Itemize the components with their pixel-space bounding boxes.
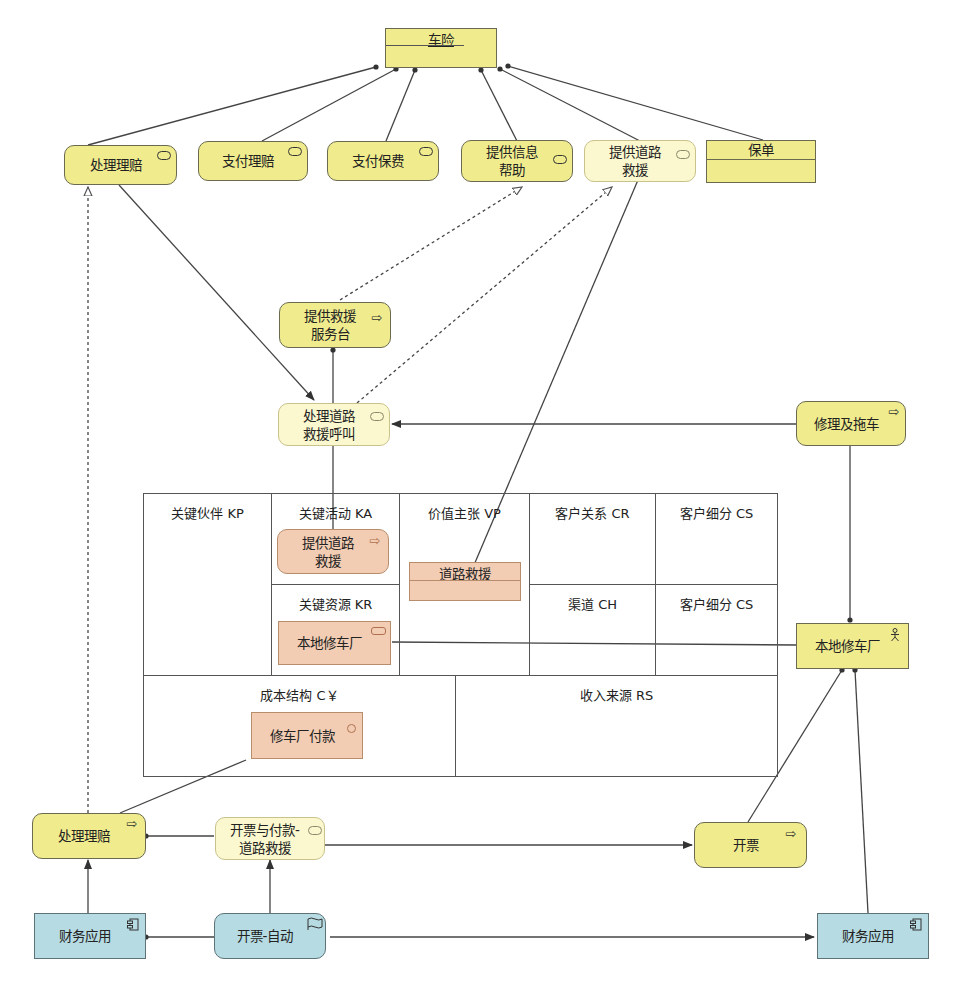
- service-icon: [308, 826, 322, 835]
- actor-icon: [888, 628, 902, 640]
- component-icon-glyph: [127, 918, 139, 931]
- app-invoice-auto[interactable]: 开票-自动: [214, 913, 326, 959]
- resource-icon: [371, 627, 386, 635]
- service-invoice-payment-roadside[interactable]: 开票与付款- 道路救援: [215, 817, 325, 860]
- cell-customer-segments-top-title: 客户细分 CS: [680, 506, 753, 521]
- process-roadside-helpdesk-label: 提供救援 服务台: [300, 307, 370, 343]
- edge-pay-claims-to-product: [262, 69, 396, 141]
- service-handle-roadside-call-label: 处理道路 救援呼叫: [299, 407, 369, 443]
- cell-key-partners: 关键伙伴 KP: [144, 494, 272, 676]
- process-invoice[interactable]: 开票 ⇨: [694, 822, 807, 868]
- process-arrow-icon: ⇨: [125, 818, 139, 830]
- cell-customer-relationships-title: 客户关系 CR: [555, 506, 629, 521]
- contract-policy[interactable]: 保单: [706, 140, 816, 183]
- ka-process-roadside-label: 提供道路 救援: [298, 534, 368, 570]
- role-local-garage[interactable]: 本地修车厂: [796, 623, 909, 669]
- service-icon: [157, 151, 171, 160]
- edge-claims-to-product: [88, 67, 376, 145]
- service-roadside-assist-label: 提供道路 救援: [605, 143, 675, 179]
- edge-roadside-to-product: [500, 69, 640, 141]
- component-icon: [126, 918, 140, 930]
- vp-value-roadside[interactable]: 道路救援: [409, 562, 521, 601]
- process-arrow-icon: ⇨: [370, 312, 384, 324]
- kr-resource-garage[interactable]: 本地修车厂: [278, 621, 391, 665]
- process-repair-tow[interactable]: 修理及拖车 ⇨: [796, 401, 906, 446]
- component-icon: [909, 918, 923, 930]
- edge-policy-to-product: [508, 66, 763, 140]
- edge-pay-premium-to-product: [386, 70, 415, 141]
- app-invoice-auto-label: 开票-自动: [233, 927, 308, 945]
- process-repair-tow-label: 修理及拖车: [810, 415, 893, 433]
- process-invoice-label: 开票: [729, 836, 773, 854]
- service-icon: [553, 155, 567, 164]
- service-icon: [288, 147, 302, 156]
- cell-revenue-streams: 收入来源 RS: [456, 676, 777, 776]
- cost-item-garage-payment[interactable]: 修车厂付款: [251, 712, 363, 759]
- service-info-help-label: 提供信息 帮助: [482, 143, 552, 179]
- process-handle-claims-bottom[interactable]: 处理理赔 ⇨: [32, 813, 146, 859]
- app-finance-right-label: 财务应用: [838, 927, 908, 945]
- process-arrow-icon: ⇨: [887, 406, 901, 418]
- process-handle-claims-bottom-label: 处理理赔: [54, 827, 124, 845]
- archimate-diagram: 车险 处理理赔 支付理赔 支付保费 提供信息 帮助 提供道路 救援 保单 提供救…: [0, 0, 958, 999]
- value-divider: [410, 580, 520, 581]
- cell-revenue-streams-title: 收入来源 RS: [580, 688, 653, 703]
- service-icon: [370, 412, 384, 421]
- product-car-insurance[interactable]: 车险: [385, 28, 497, 68]
- edge-claims-to-handle-call: [119, 185, 314, 400]
- cell-customer-relationships: 客户关系 CR: [530, 494, 656, 585]
- app-finance-right[interactable]: 财务应用: [817, 913, 929, 959]
- product-header-divider: [386, 45, 464, 46]
- edge-helpdesk-realizes-info: [340, 187, 522, 300]
- app-finance-left-label: 财务应用: [55, 927, 125, 945]
- service-invoice-payment-roadside-label: 开票与付款- 道路救援: [226, 821, 314, 857]
- edge-finance-to-garage: [855, 670, 868, 913]
- edge-handle-call-realizes-roadside: [357, 187, 612, 403]
- process-arrow-icon: ⇨: [784, 828, 798, 840]
- actor-icon-glyph: [889, 628, 901, 642]
- ka-process-roadside[interactable]: 提供道路 救援 ⇨: [277, 529, 389, 574]
- business-model-canvas: 关键伙伴 KP 关键活动 KA 关键资源 KR 价值主张 VP 客户关系 CR …: [143, 493, 778, 777]
- event-flag-icon-glyph: [307, 917, 323, 931]
- service-pay-premium-label: 支付保费: [348, 152, 418, 170]
- kr-resource-garage-label: 本地修车厂: [293, 634, 376, 652]
- service-pay-premium[interactable]: 支付保费: [327, 141, 439, 181]
- cell-channels: 渠道 CH: [530, 585, 656, 676]
- role-local-garage-label: 本地修车厂: [811, 637, 894, 655]
- contract-policy-title: 保单: [707, 141, 815, 160]
- edge-info-help-to-product: [481, 70, 517, 141]
- service-icon: [419, 147, 433, 156]
- cell-value-proposition-title: 价值主张 VP: [428, 506, 501, 521]
- service-pay-claims[interactable]: 支付理赔: [198, 141, 308, 181]
- cell-key-partners-title: 关键伙伴 KP: [171, 506, 244, 521]
- cell-customer-segments-top: 客户细分 CS: [656, 494, 777, 585]
- circle-icon: [347, 724, 356, 733]
- service-roadside-assist[interactable]: 提供道路 救援: [584, 140, 696, 182]
- cell-customer-segments-bottom: 客户细分 CS: [656, 585, 777, 676]
- process-roadside-helpdesk[interactable]: 提供救援 服务台 ⇨: [279, 302, 391, 348]
- service-handle-claims[interactable]: 处理理赔: [64, 145, 177, 185]
- cost-item-garage-payment-label: 修车厂付款: [266, 727, 349, 745]
- cell-customer-segments-bottom-title: 客户细分 CS: [680, 597, 753, 612]
- cell-cost-structure-title: 成本结构 C￥: [260, 688, 338, 703]
- service-pay-claims-label: 支付理赔: [218, 152, 288, 170]
- cell-channels-title: 渠道 CH: [568, 597, 617, 612]
- service-handle-claims-label: 处理理赔: [86, 156, 156, 174]
- service-handle-roadside-call[interactable]: 处理道路 救援呼叫: [278, 403, 390, 446]
- cell-key-resources-title: 关键资源 KR: [299, 597, 373, 612]
- component-icon-glyph: [910, 918, 922, 931]
- event-flag-icon: [307, 917, 321, 929]
- service-icon: [676, 150, 690, 159]
- process-arrow-icon: ⇨: [368, 535, 382, 547]
- cell-key-activities-title: 关键活动 KA: [299, 506, 372, 521]
- service-info-help[interactable]: 提供信息 帮助: [461, 140, 573, 182]
- app-finance-left[interactable]: 财务应用: [34, 913, 146, 959]
